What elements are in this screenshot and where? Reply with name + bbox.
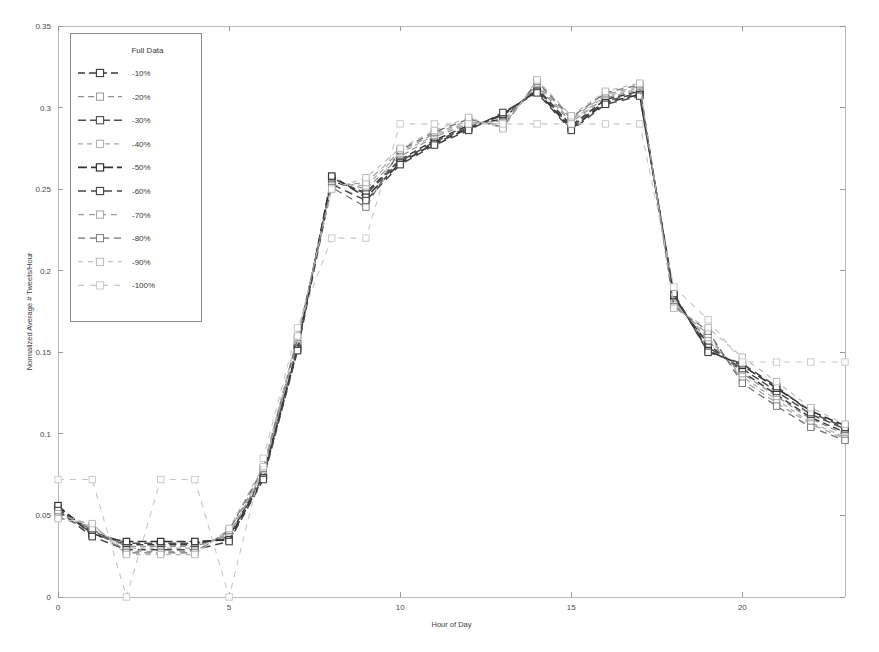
legend-marker-swatch xyxy=(96,235,103,242)
legend-marker-swatch xyxy=(96,140,103,147)
series-marker xyxy=(534,77,540,83)
series-marker xyxy=(842,421,848,427)
series-marker xyxy=(55,515,61,521)
x-tick-label: 0 xyxy=(56,603,61,612)
legend-label: -50% xyxy=(132,163,151,172)
x-tick-label: 15 xyxy=(567,603,576,612)
series-marker xyxy=(226,525,232,531)
series-marker xyxy=(192,538,198,544)
x-tick-label: 5 xyxy=(227,603,232,612)
legend: Full Data-10%-20%-30%-40%-50%-60%-70%-80… xyxy=(70,33,201,321)
legend-label: -60% xyxy=(132,187,151,196)
series-marker xyxy=(363,235,369,241)
y-tick-label: 0.35 xyxy=(35,22,51,31)
series-marker xyxy=(808,405,814,411)
series-marker xyxy=(226,538,232,544)
series-marker xyxy=(705,349,711,355)
x-tick-label: 10 xyxy=(396,603,405,612)
legend-marker-swatch xyxy=(96,117,103,124)
series-marker xyxy=(534,90,540,96)
series-marker xyxy=(123,594,129,600)
legend-marker-swatch xyxy=(96,187,103,194)
legend-marker-swatch xyxy=(96,282,103,289)
chart-figure: 00.050.10.150.20.250.30.3505101520Hour o… xyxy=(0,0,879,652)
series-marker xyxy=(705,316,711,322)
legend-label: -40% xyxy=(132,140,151,149)
legend-marker-swatch xyxy=(96,258,103,265)
series-marker xyxy=(773,378,779,384)
series-marker xyxy=(363,175,369,181)
legend-marker-swatch xyxy=(96,211,103,218)
series-marker xyxy=(192,551,198,557)
chart-canvas: 00.050.10.150.20.250.30.3505101520Hour o… xyxy=(0,0,879,652)
series-marker xyxy=(123,551,129,557)
series-marker xyxy=(157,551,163,557)
series-marker xyxy=(465,121,471,127)
series-marker xyxy=(397,161,403,167)
x-axis-title: Hour of Day xyxy=(431,620,471,629)
y-tick-label: 0 xyxy=(47,593,52,602)
series-marker xyxy=(89,520,95,526)
series-marker xyxy=(294,325,300,331)
series-marker xyxy=(568,121,574,127)
series-marker xyxy=(739,380,745,386)
series-marker xyxy=(294,347,300,353)
series-marker xyxy=(637,121,643,127)
series-marker xyxy=(465,127,471,133)
x-tick-label: 20 xyxy=(738,603,747,612)
y-tick-label: 0.25 xyxy=(35,185,51,194)
series-marker xyxy=(397,145,403,151)
legend-title: Full Data xyxy=(131,46,164,55)
series-marker xyxy=(637,80,643,86)
series-marker xyxy=(500,109,506,115)
series-marker xyxy=(773,403,779,409)
series-marker xyxy=(431,142,437,148)
legend-label: -100% xyxy=(132,281,155,290)
series-marker xyxy=(534,121,540,127)
legend-label: -70% xyxy=(132,211,151,220)
series-marker xyxy=(568,127,574,133)
y-axis-title: Normalized Average # Tweets/Hour xyxy=(25,252,34,370)
series-marker xyxy=(773,359,779,365)
series-marker xyxy=(329,173,335,179)
series-marker xyxy=(329,235,335,241)
legend-label: -10% xyxy=(132,69,151,78)
series-marker xyxy=(55,476,61,482)
y-tick-label: 0.15 xyxy=(35,348,51,357)
legend-marker-swatch xyxy=(96,69,103,76)
series-marker xyxy=(465,114,471,120)
legend-label: -90% xyxy=(132,258,151,267)
series-marker xyxy=(431,121,437,127)
legend-marker-swatch xyxy=(96,93,103,100)
series-marker xyxy=(842,359,848,365)
series-marker xyxy=(192,476,198,482)
legend-label: -20% xyxy=(132,93,151,102)
series-marker xyxy=(602,121,608,127)
legend-label: -80% xyxy=(132,234,151,243)
series-marker xyxy=(705,325,711,331)
series-marker xyxy=(671,305,677,311)
series-marker xyxy=(808,424,814,430)
series-marker xyxy=(671,284,677,290)
y-tick-label: 0.2 xyxy=(40,267,52,276)
series-marker xyxy=(89,533,95,539)
series-marker xyxy=(363,204,369,210)
series-marker xyxy=(568,113,574,119)
series-marker xyxy=(808,359,814,365)
series-marker xyxy=(226,594,232,600)
series-marker xyxy=(500,121,506,127)
series-marker xyxy=(89,476,95,482)
series-marker xyxy=(329,186,335,192)
series-marker xyxy=(123,538,129,544)
series-marker xyxy=(602,88,608,94)
y-tick-label: 0.1 xyxy=(40,430,52,439)
series-marker xyxy=(602,101,608,107)
legend-label: -30% xyxy=(132,116,151,125)
series-marker xyxy=(739,359,745,365)
y-tick-label: 0.3 xyxy=(40,104,52,113)
series-marker xyxy=(397,121,403,127)
series-marker xyxy=(431,127,437,133)
series-marker xyxy=(260,476,266,482)
series-marker xyxy=(157,538,163,544)
y-tick-label: 0.05 xyxy=(35,511,51,520)
